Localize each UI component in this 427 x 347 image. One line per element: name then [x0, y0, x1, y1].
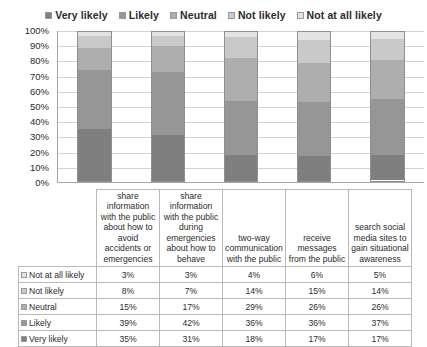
bar-segment	[297, 40, 331, 63]
legend-item-not-likely: Not likely	[228, 9, 286, 21]
bar-group	[58, 31, 424, 182]
series-swatch-icon	[21, 304, 27, 310]
table-row: Likely39%42%36%36%37%	[19, 315, 412, 331]
bar-segment	[370, 39, 404, 60]
data-table-wrap: share information with the public about …	[18, 189, 412, 347]
bar-segment	[151, 36, 185, 47]
bar-segment	[297, 63, 331, 102]
table-column-header: two-way communication with the public	[223, 190, 286, 267]
legend-swatch-icon	[170, 12, 177, 19]
bar-slot	[58, 31, 131, 182]
bar-segment	[370, 31, 404, 39]
table-row-header: Neutral	[19, 299, 97, 315]
legend-item-not-at-all-likely: Not at all likely	[297, 9, 382, 21]
bar-slot	[204, 31, 277, 182]
table-column-header: share information with the public about …	[97, 190, 160, 267]
y-axis-tick-label: 60%	[30, 87, 49, 97]
stacked-bar[interactable]	[370, 31, 404, 182]
legend-swatch-icon	[297, 12, 304, 19]
stacked-bar[interactable]	[151, 31, 185, 182]
table-cell: 17%	[349, 331, 412, 347]
series-swatch-icon	[21, 272, 27, 278]
series-label: Not likely	[29, 286, 64, 296]
bar-segment	[77, 129, 111, 182]
table-cell: 39%	[97, 315, 160, 331]
series-label: Likely	[29, 318, 51, 328]
series-label: Neutral	[29, 302, 57, 312]
bar-segment	[77, 48, 111, 71]
bar-slot	[278, 31, 351, 182]
chart-axes	[57, 31, 424, 183]
table-cell: 15%	[97, 299, 160, 315]
table-row-header: Not likely	[19, 283, 97, 299]
table-cell: 7%	[160, 283, 223, 299]
y-axis-tick-label: 40%	[30, 117, 49, 127]
table-row: Neutral15%17%29%26%26%	[19, 299, 412, 315]
bar-segment	[224, 101, 258, 155]
bar-segment	[370, 99, 404, 155]
bar-segment	[224, 155, 258, 182]
bar-segment	[224, 58, 258, 101]
y-axis-tick-label: 30%	[30, 133, 49, 143]
table-cell: 29%	[223, 299, 286, 315]
bar-segment	[151, 135, 185, 182]
table-column-header: receive messages from the public	[286, 190, 349, 267]
table-cell: 37%	[349, 315, 412, 331]
bar-segment	[77, 70, 111, 129]
bar-segment	[151, 46, 185, 72]
data-table: share information with the public about …	[18, 189, 412, 347]
table-header-row: share information with the public about …	[19, 190, 412, 267]
y-axis-tick-label: 10%	[30, 163, 49, 173]
table-row-header: Very likely	[19, 331, 97, 347]
series-swatch-icon	[21, 336, 27, 342]
table-cell: 36%	[223, 315, 286, 331]
table-column-header: share information with the public during…	[160, 190, 223, 267]
table-cell: 5%	[349, 267, 412, 283]
bar-segment	[224, 37, 258, 58]
legend-label: Not at all likely	[307, 9, 382, 21]
legend-swatch-icon	[228, 12, 235, 19]
table-row: Very likely35%31%18%17%17%	[19, 331, 412, 347]
stacked-bar[interactable]	[224, 31, 258, 182]
series-label: Not at all likely	[29, 270, 84, 280]
bar-slot	[131, 31, 204, 182]
series-swatch-icon	[21, 288, 27, 294]
table-cell: 3%	[97, 267, 160, 283]
table-corner-cell	[19, 190, 97, 267]
table-cell: 3%	[160, 267, 223, 283]
stacked-bar[interactable]	[297, 31, 331, 182]
table-cell: 26%	[349, 299, 412, 315]
table-cell: 17%	[160, 299, 223, 315]
bar-segment	[297, 102, 331, 156]
y-axis-tick-label: 80%	[30, 57, 49, 67]
y-axis-tick-labels: 100%90%80%70%60%50%40%30%20%10%0%	[0, 31, 54, 183]
table-cell: 31%	[160, 331, 223, 347]
table-cell: 26%	[286, 299, 349, 315]
table-column-header: search social media sites to gain situat…	[349, 190, 412, 267]
table-cell: 17%	[286, 331, 349, 347]
table-cell: 35%	[97, 331, 160, 347]
table-cell: 36%	[286, 315, 349, 331]
y-axis-tick-label: 90%	[30, 41, 49, 51]
table-row: Not likely8%7%14%15%14%	[19, 283, 412, 299]
table-row: Not at all likely3%3%4%6%5%	[19, 267, 412, 283]
stacked-bar[interactable]	[77, 31, 111, 182]
legend-label: Likely	[129, 9, 159, 21]
y-axis-tick-label: 0%	[35, 178, 49, 188]
legend-swatch-icon	[45, 12, 52, 19]
chart-legend: Very likely Likely Neutral Not likely No…	[0, 9, 427, 21]
table-cell: 14%	[223, 283, 286, 299]
bar-segment	[77, 36, 111, 48]
bar-segment	[297, 31, 331, 40]
bar-segment	[370, 155, 404, 181]
y-axis-tick-label: 20%	[30, 148, 49, 158]
legend-item-very-likely: Very likely	[45, 9, 107, 21]
bar-segment	[297, 156, 331, 182]
bar-segment	[370, 60, 404, 99]
table-cell: 6%	[286, 267, 349, 283]
series-label: Very likely	[29, 334, 68, 344]
legend-label: Neutral	[180, 9, 217, 21]
legend-item-likely: Likely	[119, 9, 159, 21]
legend-label: Not likely	[238, 9, 286, 21]
